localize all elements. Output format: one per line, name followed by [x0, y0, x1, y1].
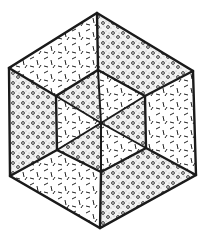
connector-bottom — [100, 172, 101, 228]
cube-illusion-figure — [0, 0, 209, 234]
connector-top — [97, 13, 98, 70]
